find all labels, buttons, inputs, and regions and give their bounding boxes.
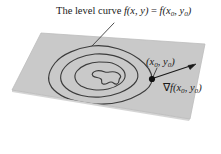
figure-canvas	[0, 0, 221, 154]
label-level-curve-sub1: 0	[171, 10, 175, 18]
level-curve-gradient-figure: The level curve f(x, y) = f(x0, y0) (x0,…	[0, 0, 221, 154]
label-level-curve-prefix: The level curve	[56, 5, 124, 16]
label-level-curve-equals: =	[148, 5, 159, 16]
label-point-close: )	[171, 56, 175, 67]
label-gradient-close: )	[198, 82, 202, 93]
label-point-sub2: 0	[168, 61, 172, 69]
label-level-curve-sub2: 0	[184, 10, 188, 18]
nabla-icon: ∇	[163, 82, 170, 93]
label-gradient-vector: ∇f(x0, y0)	[163, 83, 202, 94]
label-point-mid: , y	[158, 56, 168, 67]
label-point-coordinates: (x0, y0)	[146, 57, 175, 68]
label-gradient-open: (x	[173, 82, 181, 93]
label-level-curve-args1: (x, y)	[127, 5, 149, 16]
label-level-curve-args2-mid: , y	[174, 5, 184, 16]
label-level-curve-args2-open: (x	[163, 5, 171, 16]
label-gradient-sub1: 0	[181, 87, 185, 95]
label-gradient-sub2: 0	[195, 87, 199, 95]
label-level-curve-args2-close: )	[188, 5, 192, 16]
label-point-sub1: 0	[154, 61, 158, 69]
label-point-open: (x	[146, 56, 154, 67]
point-dot	[149, 76, 155, 82]
label-gradient-mid: , y	[185, 82, 195, 93]
label-level-curve: The level curve f(x, y) = f(x0, y0)	[56, 6, 191, 17]
